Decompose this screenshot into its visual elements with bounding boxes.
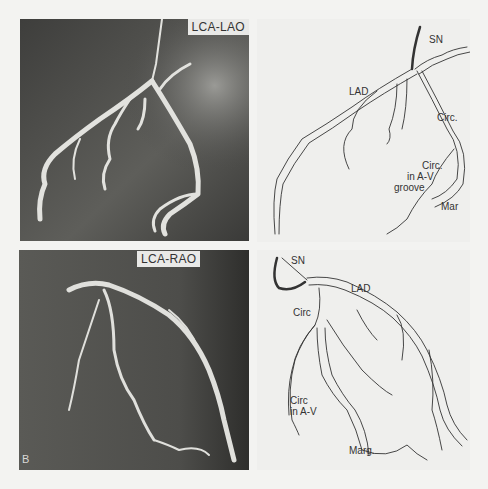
label-sn: SN [291, 256, 305, 266]
label-circ: Circ [293, 308, 311, 318]
label-marg: Marg. [349, 446, 375, 456]
angiogram-lca-lao: LCA-LAO [20, 19, 249, 241]
label-circ-av-2: in A-V [290, 407, 317, 417]
label-circ-av-3: groove [394, 183, 425, 193]
figure-letter: B [22, 453, 29, 465]
coronary-diagram-lao [257, 19, 470, 242]
label-lad: LAD [351, 284, 370, 294]
label-mar: Mar [441, 202, 458, 212]
label-circ-av-1: Circ. [422, 161, 443, 171]
label-lad: LAD [349, 87, 368, 97]
view-label: LCA-RAO [137, 251, 200, 267]
label-circ: Circ. [437, 113, 458, 123]
angiogram-vessels [19, 250, 249, 470]
label-circ-av-1: Circ [290, 396, 308, 406]
angiogram-lca-rao: LCA-RAO B [19, 250, 249, 470]
angiogram-vessels [20, 19, 249, 241]
diagram-lca-lao: SN LAD Circ. Circ. in A-V groove Mar [257, 19, 470, 242]
label-sn: SN [429, 35, 443, 45]
diagram-lca-rao: SN LAD Circ Circ in A-V Marg. [257, 250, 470, 470]
view-label: LCA-LAO [188, 19, 249, 35]
label-circ-av-2: in A-V [407, 172, 434, 182]
